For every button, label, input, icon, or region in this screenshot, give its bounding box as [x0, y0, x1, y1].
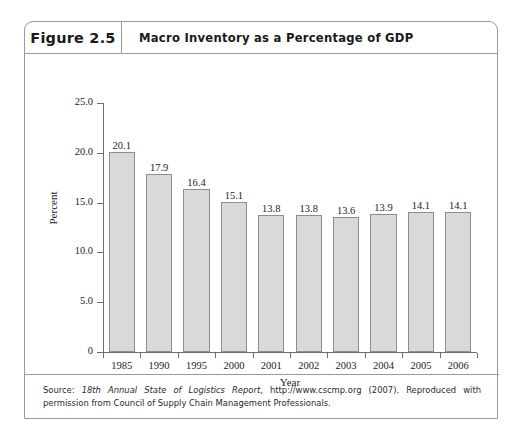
- bar-value-label: 13.8: [262, 203, 280, 214]
- bar: 17.9: [146, 174, 172, 352]
- bar-value-label: 13.6: [337, 205, 355, 216]
- x-axis-tick-label: 2003: [327, 360, 364, 371]
- x-axis-tick: [365, 353, 366, 358]
- figure-card: Figure 2.5 Macro Inventory as a Percenta…: [24, 21, 498, 419]
- x-axis-tick-label: 2004: [365, 360, 402, 371]
- x-axis-tick: [140, 353, 141, 358]
- bar: 13.8: [296, 215, 322, 352]
- bar-value-label: 13.9: [374, 202, 392, 213]
- x-axis-tick: [327, 353, 328, 358]
- bar: 15.1: [221, 202, 247, 352]
- x-axis-tick-label: 1985: [103, 360, 140, 371]
- bar: 13.6: [333, 217, 359, 352]
- bar: 20.1: [109, 152, 135, 352]
- figure-number-label: Figure 2.5: [25, 22, 122, 53]
- x-axis-tick: [477, 353, 478, 358]
- bar-value-label: 17.9: [150, 162, 168, 173]
- bar-value-label: 15.1: [225, 190, 243, 201]
- bar: 13.8: [258, 215, 284, 352]
- figure-title: Macro Inventory as a Percentage of GDP: [122, 22, 497, 53]
- x-axis-tick: [253, 353, 254, 358]
- source-note: Source: 18th Annual State of Logistics R…: [25, 374, 499, 418]
- x-axis-tick-label: 2005: [402, 360, 439, 371]
- x-axis-tick-label: 2002: [290, 360, 327, 371]
- x-axis-tick: [290, 353, 291, 358]
- x-axis-tick-label: 1995: [178, 360, 215, 371]
- bar-value-label: 14.1: [449, 200, 467, 211]
- x-axis-tick-label: 2000: [215, 360, 252, 371]
- x-axis-tick-label: 2006: [440, 360, 477, 371]
- x-axis-tick: [402, 353, 403, 358]
- chart-plot-area: Percent 05.010.015.020.025.0 20.117.916.…: [25, 54, 499, 387]
- bar: 16.4: [183, 189, 209, 352]
- source-prefix: Source:: [43, 385, 82, 395]
- bar: 13.9: [370, 214, 396, 352]
- figure-header: Figure 2.5 Macro Inventory as a Percenta…: [25, 22, 497, 54]
- x-axis-tick: [215, 353, 216, 358]
- x-axis-tick-label: 1990: [140, 360, 177, 371]
- bar-value-label: 13.8: [300, 203, 318, 214]
- x-axis-tick: [440, 353, 441, 358]
- bar-value-label: 16.4: [187, 177, 205, 188]
- source-publication-title: 18th Annual State of Logistics Report: [82, 385, 261, 395]
- bar: 14.1: [408, 212, 434, 352]
- x-axis-tick-label: 2001: [253, 360, 290, 371]
- bar-value-label: 14.1: [412, 200, 430, 211]
- x-axis-tick: [178, 353, 179, 358]
- x-axis-tick: [103, 353, 104, 358]
- bar: 14.1: [445, 212, 471, 352]
- bar-value-label: 20.1: [113, 140, 131, 151]
- bars-layer: 20.117.916.415.113.813.813.613.914.114.1: [25, 54, 499, 387]
